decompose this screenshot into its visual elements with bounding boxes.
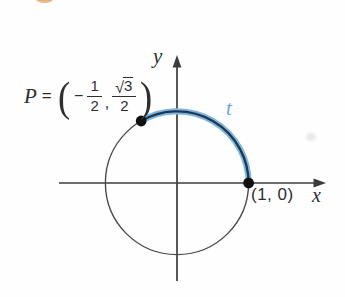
unit-point-label: (1, 0) [251,185,294,205]
comma: , [105,94,109,112]
arc-highlight-outer [141,111,248,183]
fraction-sqrt3-over-2: √ 3 2 [112,77,136,115]
y-axis-label: y [153,44,162,69]
point-p-label: P = ( − 1 2 , √ 3 2 ) [24,74,154,118]
arc-t-label: t [226,96,232,121]
unit-circle-figure: P = ( − 1 2 , √ 3 2 ) y x t (1, 0) [0,0,345,297]
equals-sign: = [40,86,54,106]
diagram-canvas [0,0,345,297]
x-axis-label: x [312,184,321,207]
fraction1-denominator: 2 [90,97,98,115]
p-variable: P [24,84,37,109]
fraction-one-half: 1 2 [87,78,101,115]
fraction2-numerator: 3 [123,77,133,95]
scan-smudge [306,133,316,141]
fraction1-numerator: 1 [87,78,101,97]
arc-highlight-core [141,111,248,183]
minus-sign: − [74,87,83,105]
y-axis-arrowhead-icon [173,55,182,68]
open-paren: ( [58,75,70,118]
close-paren: ) [140,75,152,118]
fraction2-denominator: 2 [120,97,128,115]
